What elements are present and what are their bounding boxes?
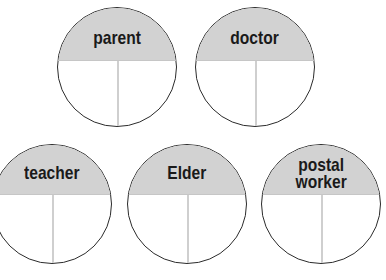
divider-line xyxy=(255,61,257,126)
circle-postal-worker: postal worker xyxy=(261,144,381,264)
circle-header: parent xyxy=(58,8,176,61)
circle-doctor: doctor xyxy=(195,7,315,127)
circle-label: postal worker xyxy=(295,156,346,190)
circle-header: teacher xyxy=(0,145,111,195)
divider-line xyxy=(52,195,54,263)
circle-header: Elder xyxy=(128,145,246,195)
circle-header: postal worker xyxy=(262,145,380,195)
circle-elder: Elder xyxy=(127,144,247,264)
divider-line xyxy=(321,195,323,263)
circle-teacher: teacher xyxy=(0,144,112,264)
divider-line xyxy=(117,61,119,126)
divider-line xyxy=(187,195,189,263)
circle-label: teacher xyxy=(24,164,79,181)
circle-label: parent xyxy=(93,29,141,46)
circle-label: doctor xyxy=(231,29,279,46)
circle-parent: parent xyxy=(57,7,177,127)
circle-header: doctor xyxy=(196,8,314,61)
circle-label: Elder xyxy=(168,164,207,181)
